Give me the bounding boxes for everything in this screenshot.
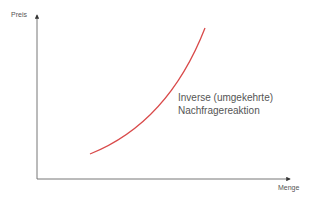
chart-canvas [0, 0, 324, 200]
curve-annotation: Inverse (umgekehrte) Nachfragereaktion [178, 91, 273, 117]
annotation-line-1: Inverse (umgekehrte) [178, 91, 273, 104]
x-axis-label: Menge [278, 184, 299, 191]
annotation-line-2: Nachfragereaktion [178, 104, 273, 117]
y-axis-label: Preis [11, 11, 27, 18]
